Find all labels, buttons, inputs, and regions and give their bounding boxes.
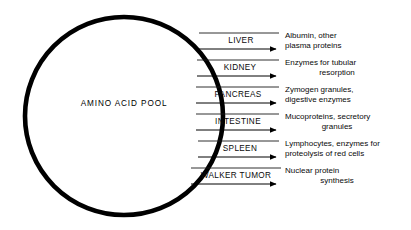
organ-label-intestine: INTESTINE — [198, 115, 278, 128]
organ-label-pancreas: PANCREAS — [198, 88, 278, 101]
product-line-1: Lymphocytes, enzymes for — [285, 139, 411, 149]
product-line-2: plasma proteins — [285, 41, 411, 51]
product-line-1: Zymogen granules, — [285, 85, 411, 95]
organ-label-liver: LIVER — [204, 34, 278, 47]
product-line-2: synthesis — [285, 176, 411, 186]
product-line-1: Mucoproteins, secretory — [285, 112, 411, 122]
organ-label-kidney: KIDNEY — [202, 61, 278, 74]
amino-acid-pool-diagram: AMINO ACID POOL LIVER KIDNEY PANCREAS IN… — [0, 0, 411, 230]
product-text-walker-tumor: Nuclear protein synthesis — [285, 166, 411, 185]
product-line-2: granules — [285, 122, 411, 132]
product-line-2: resorption — [285, 68, 411, 78]
product-text-kidney: Enzymes for tubular resorption — [285, 58, 411, 77]
product-text-spleen: Lymphocytes, enzymes for proteolysis of … — [285, 139, 411, 158]
product-line-2: proteolysis of red cells — [285, 149, 411, 159]
product-text-liver: Albumin, other plasma proteins — [285, 31, 411, 50]
product-line-1: Enzymes for tubular — [285, 58, 411, 68]
organ-label-spleen: SPLEEN — [202, 142, 278, 155]
product-text-pancreas: Zymogen granules, digestive enzymes — [285, 85, 411, 104]
product-line-2: digestive enzymes — [285, 95, 411, 105]
product-text-intestine: Mucoproteins, secretory granules — [285, 112, 411, 131]
product-line-1: Albumin, other — [285, 31, 411, 41]
amino-acid-pool-circle — [25, 17, 223, 215]
amino-acid-pool-label: AMINO ACID POOL — [40, 99, 208, 108]
organ-label-walker-tumor: WALKER TUMOR — [190, 169, 282, 182]
product-line-1: Nuclear protein — [285, 166, 411, 176]
